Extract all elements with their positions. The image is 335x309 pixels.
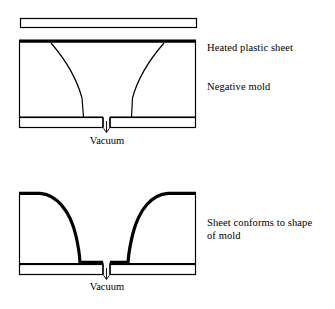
base-plate-left [20,118,104,128]
label-vacuum-top: Vacuum [67,135,147,146]
mold-cavity-left-curve [51,43,84,117]
mold-cavity-right-curve [132,43,165,117]
negative-mold-box-outline [20,41,196,118]
vacuum-arrow-top-icon [104,121,109,133]
stage-two-group [19,193,196,280]
stage-one-group [19,19,197,133]
formed-mold-box-outline [20,193,196,265]
base-plate-right [110,118,196,128]
heated-plastic-sheet-bar [21,19,197,28]
conformed-sheet-profile [19,193,196,262]
label-sheet-conforms: Sheet conforms to shape of mold [207,216,331,242]
vacuum-arrow-bottom-icon [104,268,109,280]
label-negative-mold: Negative mold [207,80,333,93]
label-heated-plastic-sheet: Heated plastic sheet [207,41,333,54]
formed-base-plate-left [20,265,104,275]
label-vacuum-bottom: Vacuum [67,281,147,292]
vacuum-forming-figure: Heated plastic sheet Negative mold Sheet… [0,0,335,309]
formed-base-plate-right [110,265,196,275]
